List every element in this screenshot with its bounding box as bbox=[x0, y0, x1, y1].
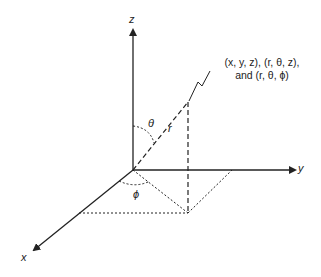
diagram-graphics bbox=[0, 0, 321, 277]
x-axis-label: x bbox=[21, 251, 27, 263]
ground-projection bbox=[133, 170, 188, 213]
radius-label: r bbox=[168, 122, 172, 134]
y-parallel bbox=[188, 170, 232, 213]
coordinate-diagram: z y x r θ ϕ (x, y, z), (r, θ, z), and (r… bbox=[0, 0, 321, 277]
annotation-line-1: (x, y, z), (r, θ, z), bbox=[212, 56, 312, 69]
x-axis bbox=[34, 170, 133, 250]
theta-label: θ bbox=[148, 117, 154, 129]
point-annotation: (x, y, z), (r, θ, z), and (r, θ, ϕ) bbox=[212, 56, 312, 82]
phi-arc bbox=[119, 181, 148, 185]
y-axis-label: y bbox=[298, 162, 304, 174]
phi-label: ϕ bbox=[133, 188, 139, 200]
radius-line bbox=[133, 102, 188, 170]
leader-zigzag bbox=[189, 71, 210, 101]
z-axis-label: z bbox=[129, 13, 135, 25]
annotation-line-2: and (r, θ, ϕ) bbox=[212, 69, 312, 82]
